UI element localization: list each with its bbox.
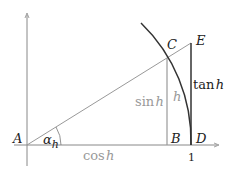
unit-tick-label: 1 [188,152,195,163]
cos-var: h [106,148,114,163]
sin-fn: sin [135,94,154,109]
point-label-c: C [167,38,177,51]
angle-subscript: h [52,138,59,151]
tan-label: tan h [193,78,224,91]
arc-label: h [173,90,181,103]
cos-label: cos h [83,149,114,162]
angle-symbol: α [43,132,52,147]
point-label-b: B [171,132,181,145]
sin-var: h [156,94,164,109]
sin-label: sin h [135,95,164,108]
point-label-d: D [196,132,206,145]
cos-fn: cos [83,148,105,163]
point-label-a: A [13,132,22,145]
tan-fn: tan [193,77,214,92]
angle-label: αh [43,133,59,150]
trig-diagram: A αh B C D E cos h sin h tan h h 1 [0,0,235,174]
point-label-e: E [196,34,206,47]
tan-var: h [216,77,224,92]
